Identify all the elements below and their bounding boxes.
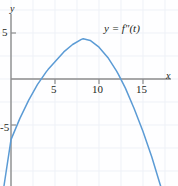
plot-background xyxy=(0,0,178,186)
x-axis-label: x xyxy=(166,71,170,81)
x-tick-label-10: 10 xyxy=(92,84,103,95)
y-tick-label-minus-5: -5 xyxy=(0,122,9,133)
curve-equation-label: y = f″(t) xyxy=(104,23,140,34)
x-tick-label-15: 15 xyxy=(136,84,147,95)
figure-container: y x 5 -5 5 10 15 y = f″(t) xyxy=(0,0,178,186)
y-tick-label-5: 5 xyxy=(2,27,8,38)
parabola-plot xyxy=(0,0,178,186)
x-tick-label-5: 5 xyxy=(51,84,57,95)
y-axis-label: y xyxy=(10,4,14,14)
